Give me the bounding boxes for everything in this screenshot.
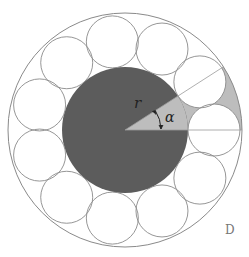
geometry-diagram: r α D: [0, 0, 249, 257]
ring-circle: [174, 152, 226, 204]
ring-circle: [136, 23, 188, 75]
ring-circle: [86, 16, 138, 68]
ring-circle: [14, 79, 66, 131]
angle-label: α: [165, 109, 175, 125]
ring-circle: [136, 185, 188, 237]
ring-circle: [86, 192, 138, 244]
radius-label: r: [134, 94, 142, 112]
ring-circle: [41, 171, 93, 223]
corner-tag: D: [225, 223, 235, 237]
